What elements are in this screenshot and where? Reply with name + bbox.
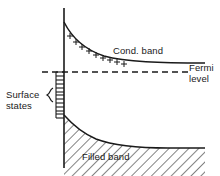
conduction-band-curve <box>64 22 205 63</box>
surface-states-ladder <box>56 72 64 118</box>
fermi-level-label-line1: Fermi <box>189 62 214 73</box>
fermi-level-label-line2: level <box>189 73 209 84</box>
fermi-level-label: Fermilevel <box>189 63 214 84</box>
surface-states-brace <box>47 88 53 102</box>
surface-states-label: Surfacestates <box>6 90 39 111</box>
band-diagram-canvas <box>0 0 220 176</box>
surface-states-label-line2: states <box>6 100 32 111</box>
band-diagram-figure: Cond. band Fermilevel Surfacestates Fill… <box>0 0 220 176</box>
filled-band-hatching <box>60 110 210 176</box>
surface-states-label-line1: Surface <box>6 89 39 100</box>
conduction-band-label: Cond. band <box>113 46 163 57</box>
filled-band-label: Filled band <box>82 152 130 163</box>
